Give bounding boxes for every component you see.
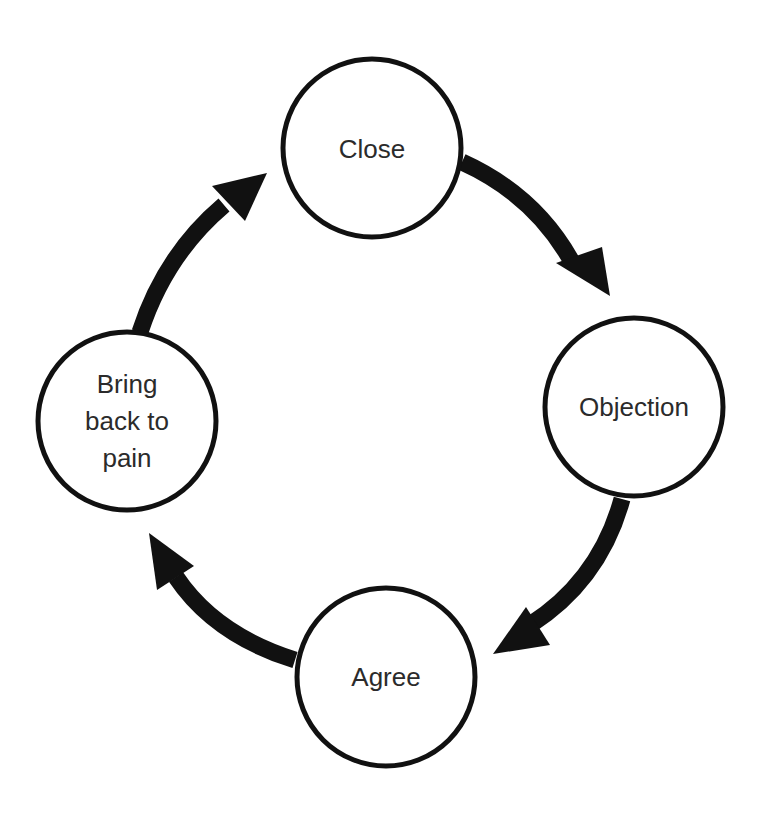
node-label-bring-line-1: Bring bbox=[97, 369, 158, 399]
node-agree: Agree bbox=[297, 588, 475, 766]
node-label-objection: Objection bbox=[579, 392, 689, 422]
node-objection: Objection bbox=[545, 318, 723, 496]
arrow-close-to-objection bbox=[462, 162, 610, 296]
node-label-agree: Agree bbox=[351, 662, 420, 692]
node-label-close: Close bbox=[339, 134, 405, 164]
arrow-objection-to-agree bbox=[493, 499, 622, 654]
node-label-bring-line-3: pain bbox=[102, 443, 151, 473]
node-close: Close bbox=[283, 59, 461, 237]
arrow-bring-back-to-close bbox=[140, 173, 267, 332]
cycle-diagram: Close Objection Agree Bring back to pain bbox=[0, 0, 762, 817]
node-bring-back-to-pain: Bring back to pain bbox=[38, 332, 216, 510]
arrow-agree-to-bring-back bbox=[149, 533, 295, 660]
node-label-bring-line-2: back to bbox=[85, 406, 169, 436]
